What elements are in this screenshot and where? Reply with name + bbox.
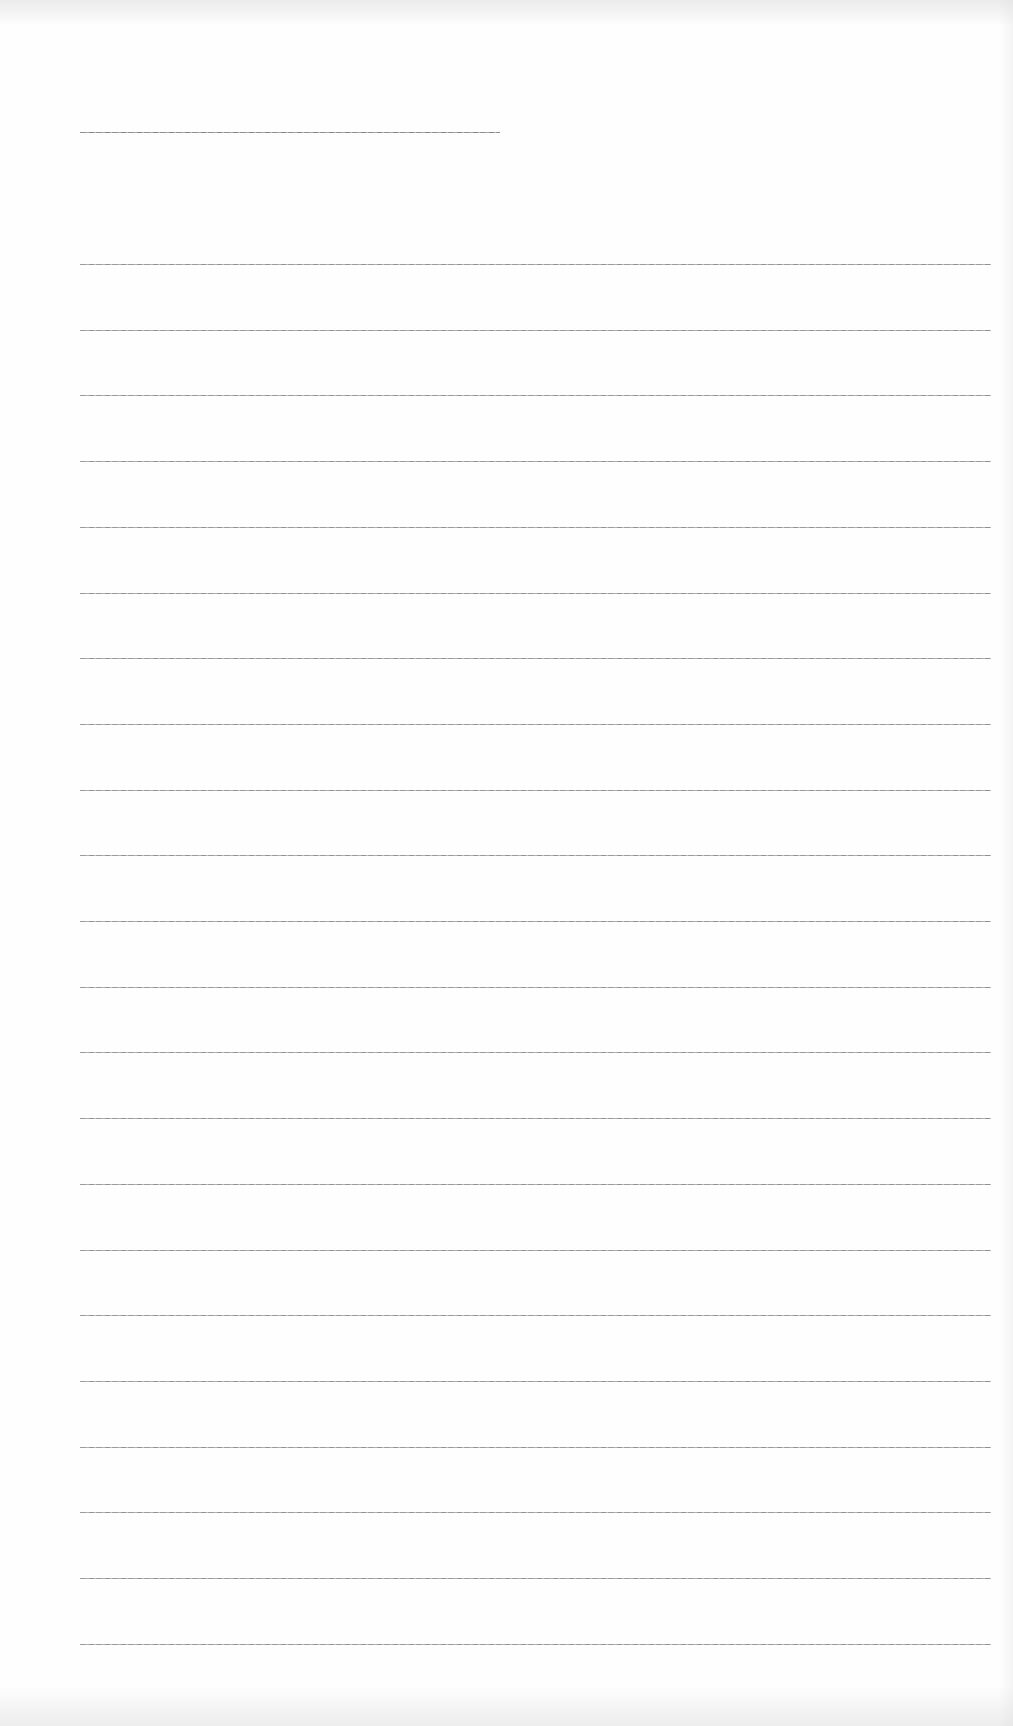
- ruled-line: [80, 790, 991, 791]
- heading-rule-line: [80, 132, 500, 133]
- ruled-line: [80, 987, 991, 988]
- ruled-line: [80, 395, 991, 396]
- ruled-page: [0, 0, 1013, 1726]
- ruled-line: [80, 527, 991, 528]
- scan-edge-right: [999, 0, 1013, 1726]
- ruled-line: [80, 264, 991, 265]
- ruled-line: [80, 461, 991, 462]
- scan-edge-top: [0, 0, 1013, 26]
- ruled-line: [80, 1512, 991, 1513]
- ruled-line: [80, 1644, 991, 1645]
- scan-edge-bottom: [0, 1686, 1013, 1726]
- ruled-line: [80, 1118, 991, 1119]
- ruled-line: [80, 1447, 991, 1448]
- ruled-line: [80, 1184, 991, 1185]
- ruled-line: [80, 1381, 991, 1382]
- ruled-line: [80, 724, 991, 725]
- ruled-line: [80, 1578, 991, 1579]
- ruled-line: [80, 1315, 991, 1316]
- ruled-line: [80, 921, 991, 922]
- ruled-line: [80, 330, 991, 331]
- ruled-line: [80, 593, 991, 594]
- ruled-line: [80, 855, 991, 856]
- ruled-line: [80, 658, 991, 659]
- ruled-line: [80, 1250, 991, 1251]
- ruled-line: [80, 1052, 991, 1053]
